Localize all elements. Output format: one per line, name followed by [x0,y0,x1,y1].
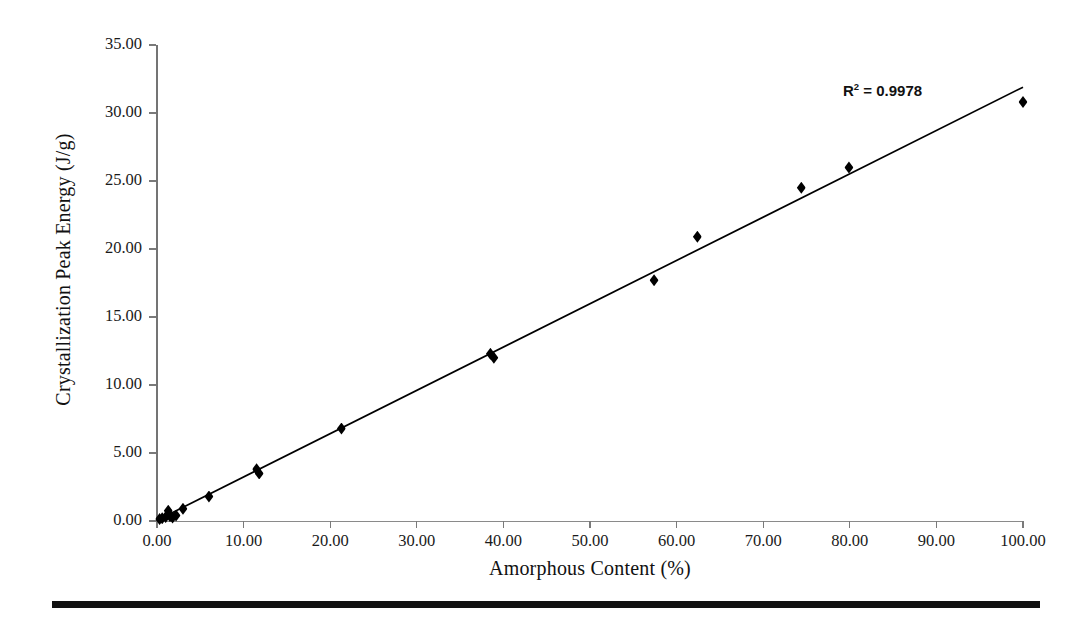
x-axis-tick [676,521,677,528]
x-axis-tick [849,521,850,528]
y-axis-line [156,45,158,522]
x-axis-tick-label: 40.00 [458,531,548,551]
x-axis-tick [330,521,331,528]
y-axis-title: Crystallization Peak Energy (J/g) [52,60,75,480]
y-axis-tick [149,112,156,113]
y-axis-tick [149,452,156,453]
data-point-marker [797,182,806,194]
r-squared-value: = 0.9978 [859,82,922,99]
x-axis-tick [416,521,417,528]
x-axis-title: Amorphous Content (%) [157,557,1023,580]
x-axis-tick-label: 30.00 [372,531,462,551]
x-axis-tick [243,521,244,528]
x-axis-tick-label: 100.00 [978,531,1068,551]
r-squared-symbol: R [843,82,854,99]
trendline [157,87,1023,520]
data-point-marker [650,274,659,286]
x-axis-tick-label: 70.00 [718,531,808,551]
data-point-marker [844,161,853,173]
plot-data-layer [0,0,1088,622]
x-axis-tick-label: 80.00 [805,531,895,551]
x-axis-tick-label: 90.00 [891,531,981,551]
x-axis-tick-label: 10.00 [199,531,289,551]
x-axis-tick-label: 60.00 [632,531,722,551]
x-axis-tick-label: 0.00 [112,531,202,551]
x-axis-tick [1022,521,1023,528]
y-axis-tick [149,384,156,385]
x-axis-tick [763,521,764,528]
figure-page: 0.005.0010.0015.0020.0025.0030.0035.000.… [0,0,1088,622]
y-axis-tick [149,44,156,45]
y-axis-tick [149,180,156,181]
data-point-marker [693,231,702,243]
y-axis-tick-label: 0.00 [62,510,142,530]
data-point-marker [1019,96,1028,108]
data-point-marker [178,503,187,515]
y-axis-tick [149,248,156,249]
x-axis-tick-label: 50.00 [545,531,635,551]
x-axis-tick [936,521,937,528]
x-axis-tick [589,521,590,528]
r-squared-annotation: R2 = 0.9978 [843,81,922,99]
x-axis-tick [503,521,504,528]
y-axis-tick [149,316,156,317]
page-separator-rule [52,601,1040,608]
data-point-marker [204,491,213,503]
x-axis-tick-label: 20.00 [285,531,375,551]
y-axis-tick [149,520,156,521]
data-point-marker [337,423,346,435]
y-axis-tick-label: 35.00 [62,34,142,54]
